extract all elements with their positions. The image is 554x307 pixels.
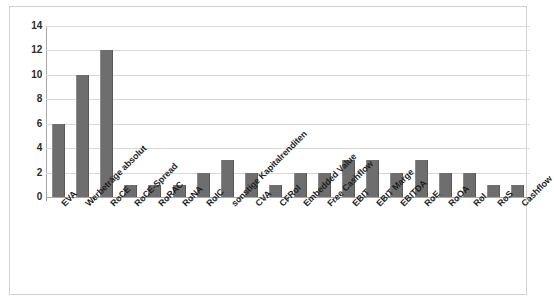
y-axis-tick-label: 8 — [12, 94, 42, 104]
y-axis-tick-label: 0 — [12, 192, 42, 202]
bar-slot — [433, 26, 457, 197]
bar — [76, 75, 89, 197]
y-axis-tick-label: 10 — [12, 70, 42, 80]
x-axis-tick-labels: EVAWerbeträge absolutRoCERoCE-SpreadRoRA… — [46, 202, 530, 302]
y-axis-tick-label: 14 — [12, 21, 42, 31]
y-axis-tick-label: 4 — [12, 143, 42, 153]
bar-slot — [215, 26, 239, 197]
y-axis-tick-labels: 02468101214 — [10, 7, 42, 207]
bar — [52, 124, 65, 197]
bar-slot — [506, 26, 530, 197]
bar-slot — [191, 26, 215, 197]
bar-slot — [457, 26, 481, 197]
bar-slot — [46, 26, 70, 197]
bar-slot — [482, 26, 506, 197]
bar-slot — [288, 26, 312, 197]
y-axis-tick-label: 6 — [12, 119, 42, 129]
y-axis-tick-label: 12 — [12, 45, 42, 55]
bar-slot — [70, 26, 94, 197]
y-axis-tick-label: 2 — [12, 168, 42, 178]
chart-frame: 02468101214 EVAWerbeträge absolutRoCERoC… — [9, 6, 527, 295]
bar — [487, 185, 500, 197]
